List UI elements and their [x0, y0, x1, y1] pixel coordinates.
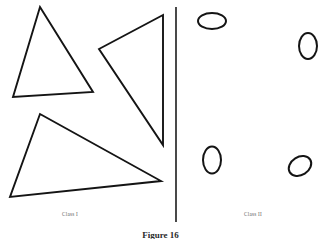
class-ii-label: Class II [244, 212, 262, 217]
triangle-middle [99, 15, 163, 145]
triangle-lower-left [10, 114, 161, 197]
class-i-label: Class I [62, 212, 78, 217]
figure-canvas [0, 0, 321, 239]
ellipse-bottom-left [203, 147, 221, 174]
class-ii-shape-group [198, 13, 317, 180]
ellipse-bottom-right [285, 152, 315, 180]
ellipse-top-left [198, 13, 226, 29]
figure-container: Class I Class II Figure 16 [0, 0, 321, 239]
class-i-shape-group [10, 7, 163, 197]
ellipse-top-right [299, 33, 317, 59]
figure-caption: Figure 16 [0, 231, 321, 239]
triangle-upper-left [13, 7, 93, 97]
